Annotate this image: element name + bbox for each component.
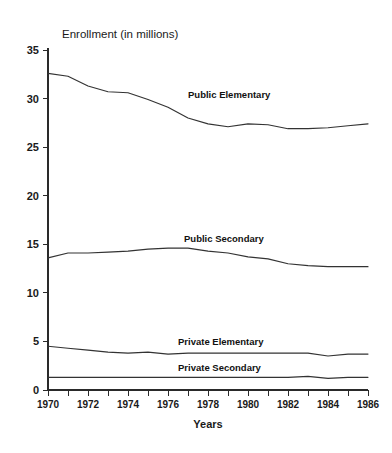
x-tick-label: 1986 [357, 399, 380, 410]
series-line-private-elementary [48, 346, 368, 356]
chart-canvas: Enrollment (in millions)0510152025303519… [0, 0, 392, 453]
series-line-private-secondary [48, 376, 368, 378]
x-tick-label: 1984 [317, 399, 340, 410]
series-line-public-elementary [48, 73, 368, 128]
series-label-private-elementary: Private Elementary [178, 336, 264, 347]
x-tick-label: 1978 [197, 399, 220, 410]
y-tick-label: 20 [27, 190, 39, 202]
chart-title: Enrollment (in millions) [62, 28, 178, 40]
x-axis-title: Years [193, 418, 222, 430]
x-tick-label: 1976 [157, 399, 180, 410]
x-tick-label: 1980 [237, 399, 260, 410]
x-tick-label: 1972 [77, 399, 100, 410]
x-tick-label: 1974 [117, 399, 140, 410]
enrollment-line-chart: Enrollment (in millions)0510152025303519… [0, 0, 392, 453]
series-label-public-elementary: Public Elementary [188, 89, 271, 100]
y-tick-label: 5 [33, 335, 39, 347]
x-tick-label: 1970 [37, 399, 60, 410]
y-tick-label: 15 [27, 238, 39, 250]
series-line-public-secondary [48, 248, 368, 266]
y-tick-label: 30 [27, 93, 39, 105]
x-tick-label: 1982 [277, 399, 300, 410]
series-label-public-secondary: Public Secondary [184, 233, 264, 244]
y-tick-label: 25 [27, 141, 39, 153]
y-tick-label: 35 [27, 44, 39, 56]
y-tick-label: 0 [33, 384, 39, 396]
series-label-private-secondary: Private Secondary [178, 362, 262, 373]
y-tick-label: 10 [27, 287, 39, 299]
